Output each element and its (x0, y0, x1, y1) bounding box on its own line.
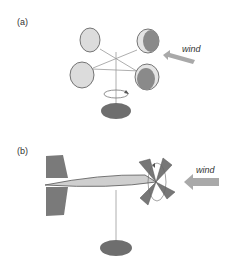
anemometer-diagram (0, 0, 240, 266)
wind-arrow-a (163, 50, 195, 64)
wind-arrow-b (184, 174, 219, 190)
propeller-anemometer (45, 155, 175, 256)
cup-anemometer (70, 28, 159, 119)
